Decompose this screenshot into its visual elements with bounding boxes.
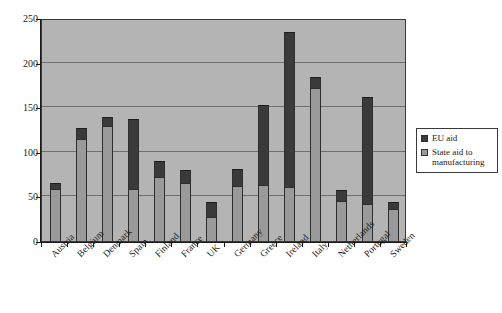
legend-item-eu-aid: EU aid <box>421 133 493 143</box>
bar-segment-eu-aid <box>310 77 321 88</box>
bar-segment-state-aid <box>154 177 165 241</box>
bar-italy[interactable] <box>310 77 321 241</box>
y-tick-label: 100 <box>4 148 38 158</box>
bar-segment-eu-aid <box>258 105 269 184</box>
chart-legend: EU aid State aid to manufacturing <box>416 128 498 173</box>
bar-segment-state-aid <box>50 189 61 241</box>
bars-layer <box>42 20 405 241</box>
bar-france[interactable] <box>180 170 191 241</box>
bar-germany[interactable] <box>232 169 243 241</box>
bar-segment-eu-aid <box>154 161 165 177</box>
bar-segment-eu-aid <box>128 119 139 189</box>
bar-ireland[interactable] <box>284 32 295 241</box>
bar-segment-eu-aid <box>336 190 347 201</box>
bar-segment-state-aid <box>76 139 87 241</box>
y-axis-line <box>40 19 41 243</box>
bar-segment-state-aid <box>102 126 113 241</box>
bar-segment-eu-aid <box>180 170 191 183</box>
bar-segment-eu-aid <box>362 97 373 203</box>
bar-greece[interactable] <box>258 105 269 241</box>
bar-austria[interactable] <box>50 183 61 241</box>
y-axis-ticks: 050100150200250 <box>0 0 38 313</box>
bar-spain[interactable] <box>128 119 139 241</box>
bar-denmark[interactable] <box>102 117 113 241</box>
bar-finland[interactable] <box>154 161 165 241</box>
bar-segment-eu-aid <box>388 202 399 209</box>
bar-uk[interactable] <box>206 202 217 241</box>
y-tick-label: 200 <box>4 59 38 69</box>
bar-netherlands[interactable] <box>336 190 347 241</box>
bar-segment-state-aid <box>180 183 191 241</box>
legend-label-eu-aid: EU aid <box>432 133 457 143</box>
y-tick-label: 250 <box>4 14 38 24</box>
y-tick-label: 50 <box>4 192 38 202</box>
bar-chart: 050100150200250 AustriaBelgiumDenmarkSpa… <box>0 0 502 313</box>
y-tick-label: 150 <box>4 103 38 113</box>
bar-segment-eu-aid <box>284 32 295 187</box>
legend-label-state-aid: State aid to manufacturing <box>432 147 493 167</box>
bar-segment-state-aid <box>284 187 295 241</box>
bar-segment-state-aid <box>232 186 243 241</box>
bar-segment-state-aid <box>336 201 347 241</box>
bar-segment-eu-aid <box>206 202 217 217</box>
plot-area <box>41 19 406 242</box>
y-tick-label: 0 <box>4 237 38 247</box>
x-label-uk: UK <box>205 242 222 259</box>
bar-segment-eu-aid <box>76 128 87 140</box>
legend-swatch-state-aid <box>421 149 428 156</box>
x-tick-mark <box>224 243 225 247</box>
bar-belgium[interactable] <box>76 128 87 241</box>
bar-segment-eu-aid <box>232 169 243 186</box>
bar-segment-state-aid <box>310 88 321 241</box>
legend-item-state-aid: State aid to manufacturing <box>421 147 493 167</box>
bar-segment-eu-aid <box>102 117 113 126</box>
legend-swatch-eu-aid <box>421 135 428 142</box>
x-tick-mark <box>41 243 42 247</box>
bar-segment-state-aid <box>206 217 217 241</box>
